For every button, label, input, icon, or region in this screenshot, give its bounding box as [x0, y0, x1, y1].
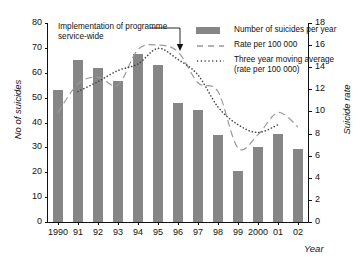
bar-swatch-icon	[196, 27, 226, 35]
annotation-arrowhead-icon	[177, 44, 183, 51]
legend-label-rate: Rate per 100 000	[234, 39, 297, 50]
annotation-arrow	[0, 0, 363, 264]
legend-label-bars: Number of suicides per year	[234, 24, 336, 35]
suicide-statistics-chart: No of suicides Suicide rate Year 0102030…	[0, 0, 363, 264]
dotted-line-icon	[196, 57, 226, 65]
annotation-leader-line	[150, 28, 180, 44]
legend-label-moving-average-2: (rate per 100 000)	[234, 64, 300, 75]
dashed-line-icon	[196, 42, 226, 50]
